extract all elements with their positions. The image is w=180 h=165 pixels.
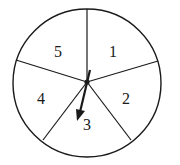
pointer-pivot [84,79,89,84]
divider-right [87,61,158,82]
section-label-4: 4 [37,90,45,107]
section-label-1: 1 [109,43,117,60]
spinner-diagram: 1 2 3 4 5 [0,0,180,165]
section-label-5: 5 [54,43,62,60]
divider-left [16,60,87,82]
section-label-3: 3 [83,116,91,133]
pointer-shaft [80,70,90,112]
section-label-2: 2 [122,90,130,107]
spinner-svg: 1 2 3 4 5 [0,0,180,165]
